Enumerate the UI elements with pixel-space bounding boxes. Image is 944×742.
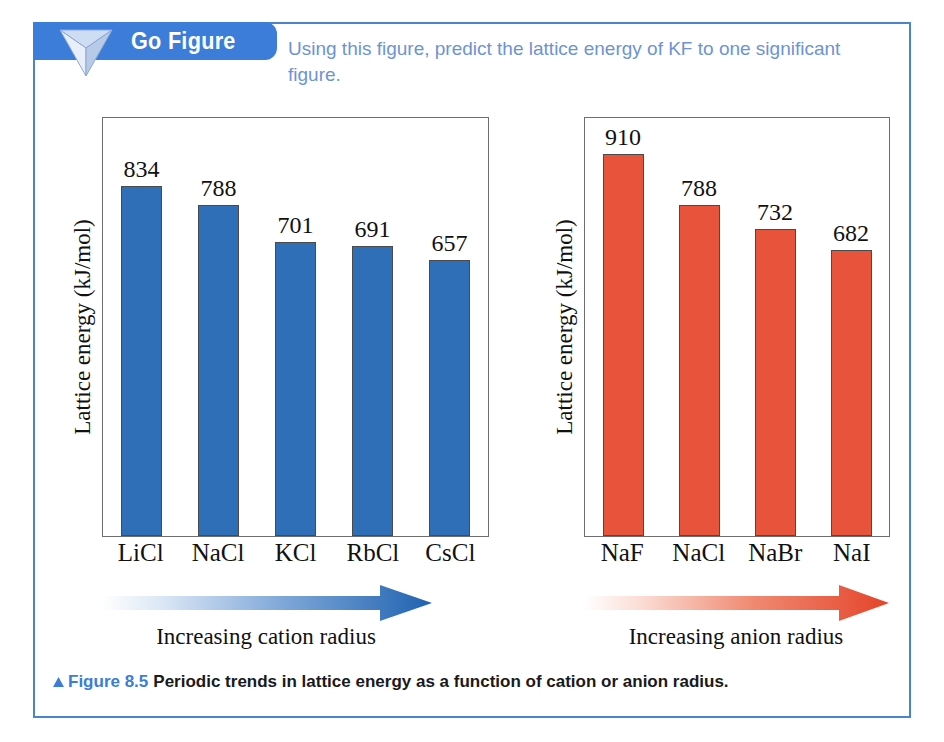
bar-value-label: 657 <box>432 231 468 255</box>
x-axis-label: NaBr <box>737 539 814 567</box>
bar <box>831 250 872 536</box>
figure-caption: Figure 8.5Periodic trends in lattice ene… <box>52 672 892 693</box>
x-axis-label: NaCl <box>661 539 738 567</box>
go-figure-question: Using this figure, predict the lattice e… <box>288 36 888 88</box>
bar <box>275 242 316 536</box>
bar-group: 701 <box>275 118 316 536</box>
x-axis-label: NaI <box>814 539 891 567</box>
bar-group: 788 <box>679 118 720 536</box>
bar <box>429 260 470 536</box>
bar-value-label: 682 <box>833 221 869 245</box>
bar-group: 788 <box>198 118 239 536</box>
bar <box>352 246 393 536</box>
x-axis-label: KCl <box>257 539 334 567</box>
increasing-anion-radius-arrow-icon <box>584 583 889 623</box>
y-axis-title-right: Lattice energy (kJ/mol) <box>548 117 582 537</box>
bar-group: 657 <box>429 118 470 536</box>
bar <box>755 229 796 536</box>
bar-group: 834 <box>121 118 162 536</box>
bar <box>679 205 720 536</box>
bar-group: 910 <box>603 118 644 536</box>
bar-value-label: 701 <box>278 213 314 237</box>
bar <box>603 154 644 536</box>
x-axis-label: NaF <box>584 539 661 567</box>
bars-group-left: 834788701691657 <box>103 118 488 536</box>
bar-value-label: 910 <box>605 125 641 149</box>
go-figure-banner: Go Figure <box>33 22 277 60</box>
y-axis-title-left: Lattice energy (kJ/mol) <box>66 117 100 537</box>
go-figure-label: Go Figure <box>131 28 236 55</box>
plot-area-left: 834788701691657 <box>102 117 489 537</box>
bar-group: 682 <box>831 118 872 536</box>
x-axis-label: RbCl <box>334 539 411 567</box>
plot-area-right: 910788732682 <box>584 117 890 537</box>
cation-trend-caption: Increasing cation radius <box>96 624 436 650</box>
increasing-cation-radius-arrow-icon <box>102 583 432 623</box>
bar-value-label: 691 <box>355 217 391 241</box>
bar <box>121 186 162 536</box>
caption-figure-number: Figure 8.5 <box>68 672 148 691</box>
bar-value-label: 732 <box>757 200 793 224</box>
caption-triangle-icon <box>52 673 65 693</box>
bars-group-right: 910788732682 <box>585 118 889 536</box>
bar-value-label: 788 <box>681 176 717 200</box>
bar-value-label: 834 <box>124 157 160 181</box>
bar-group: 691 <box>352 118 393 536</box>
bar <box>198 205 239 536</box>
x-axis-label: CsCl <box>412 539 489 567</box>
anion-trend-caption: Increasing anion radius <box>578 624 894 650</box>
bar-group: 732 <box>755 118 796 536</box>
x-axis-label: NaCl <box>179 539 256 567</box>
x-axis-label: LiCl <box>102 539 179 567</box>
bar-value-label: 788 <box>201 176 237 200</box>
x-axis-labels-left: LiClNaClKClRbClCsCl <box>102 539 489 567</box>
figure-top-border <box>245 22 911 24</box>
x-axis-labels-right: NaFNaClNaBrNaI <box>584 539 890 567</box>
caption-text: Periodic trends in lattice energy as a f… <box>153 672 728 691</box>
